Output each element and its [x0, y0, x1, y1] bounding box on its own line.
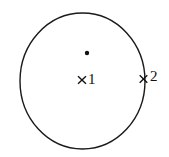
center-dot [85, 51, 89, 55]
cross-marker-1 [78, 76, 86, 84]
geometry-figure: 1 2 [0, 0, 169, 157]
figure-canvas [0, 0, 169, 157]
point-label-2: 2 [150, 69, 158, 84]
cross-marker-2 [140, 75, 148, 83]
point-label-1: 1 [88, 72, 96, 87]
